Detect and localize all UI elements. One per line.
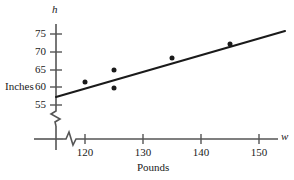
x-axis-variable-label: w xyxy=(281,131,288,142)
data-point xyxy=(112,86,117,91)
regression-line xyxy=(56,31,285,97)
x-tick-label-130: 130 xyxy=(128,147,158,158)
x-tick-label-150: 150 xyxy=(244,147,274,158)
y-tick-label-70: 70 xyxy=(28,46,46,57)
x-axis-break-mark xyxy=(63,132,79,145)
x-axis-name-label: Pounds xyxy=(137,162,169,173)
y-tick-label-60: 60 xyxy=(28,81,46,92)
y-axis-break-mark xyxy=(51,107,60,126)
y-tick-label-65: 65 xyxy=(28,64,46,75)
data-point xyxy=(170,56,175,61)
data-point xyxy=(228,42,233,47)
x-tick-label-140: 140 xyxy=(186,147,216,158)
y-tick-label-75: 75 xyxy=(28,28,46,39)
y-axis-variable-label: h xyxy=(52,4,58,15)
data-point xyxy=(83,80,88,85)
x-tick-label-120: 120 xyxy=(70,147,100,158)
scatter-plot-figure: h w Inches Pounds 75 70 65 60 55 120 130… xyxy=(0,0,294,180)
y-tick-label-55: 55 xyxy=(28,99,46,110)
data-point xyxy=(112,68,117,73)
